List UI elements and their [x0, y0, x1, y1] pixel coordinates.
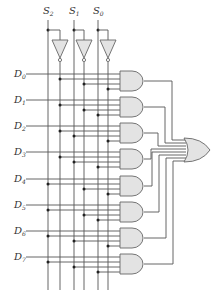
data-label-d6: D6: [13, 225, 26, 237]
and-output-wire: [144, 161, 186, 264]
data-label-d5: D5: [13, 199, 26, 211]
junction-dot: [73, 266, 76, 269]
junction-dot: [59, 78, 62, 81]
and-gate-icon: [120, 228, 143, 248]
select-label-s2: S2: [43, 5, 54, 17]
junction-dot: [107, 140, 110, 143]
junction-dot: [107, 193, 110, 196]
and-gate-icon: [120, 176, 143, 196]
and-output-wire: [144, 158, 186, 238]
junction-dot: [83, 109, 86, 112]
junction-dot: [97, 271, 100, 274]
and-output-wire: [144, 107, 186, 143]
junction-dot: [59, 156, 62, 159]
junction-dot: [97, 166, 100, 169]
junction-dot: [47, 209, 50, 212]
select-label-s1: S1: [69, 5, 80, 17]
and-output-wire: [144, 152, 186, 186]
junction-dot: [73, 135, 76, 138]
junction-dot: [47, 183, 50, 186]
and-gate-icon: [120, 71, 143, 91]
junction-dot: [83, 83, 86, 86]
junction-dot: [47, 261, 50, 264]
and-gate-icon: [120, 123, 143, 143]
junction-dot: [73, 240, 76, 243]
data-label-d4: D4: [13, 173, 26, 185]
junction-dot: [107, 245, 110, 248]
data-label-d0: D0: [13, 68, 26, 80]
junction-dot: [83, 188, 86, 191]
and-gate-icon: [120, 97, 143, 117]
junction-dot: [47, 235, 50, 238]
and-gate-icon: [120, 202, 143, 222]
data-label-d3: D3: [13, 146, 26, 158]
select-label-s0: S0: [93, 5, 104, 17]
junction-dot: [107, 88, 110, 91]
junction-dot: [59, 130, 62, 133]
mux-circuit-diagram: S2S1S0D0D1D2D3D4D5D6D7: [0, 0, 215, 301]
junction-dot: [73, 161, 76, 164]
data-label-d7: D7: [13, 251, 26, 263]
junction-dot: [97, 219, 100, 222]
and-output-wire: [144, 155, 186, 212]
data-label-d2: D2: [13, 120, 26, 132]
and-gate-icon: [120, 149, 143, 169]
inverter-bubble: [106, 58, 109, 61]
and-gate-icon: [120, 254, 143, 274]
inverter-bubble: [58, 58, 61, 61]
junction-dot: [97, 114, 100, 117]
inverter-icon: [100, 40, 116, 58]
junction-dot: [83, 214, 86, 217]
inverter-icon: [52, 40, 68, 58]
data-label-d1: D1: [13, 94, 26, 106]
inverter-bubble: [82, 58, 85, 61]
junction-dot: [59, 104, 62, 107]
or-gate-icon: [184, 138, 210, 162]
inverter-icon: [76, 40, 92, 58]
and-output-wire: [144, 149, 186, 159]
